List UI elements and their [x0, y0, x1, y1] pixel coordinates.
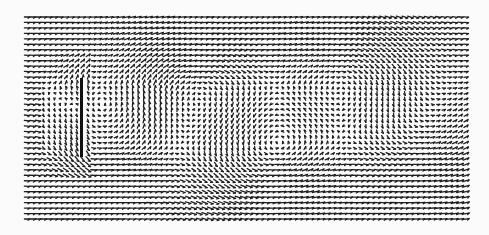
vector-field-canvas: [0, 0, 489, 235]
flat-plate-obstacle: [80, 78, 83, 157]
quiver-plot: Velocity vector field of flow past a ver…: [0, 0, 489, 235]
